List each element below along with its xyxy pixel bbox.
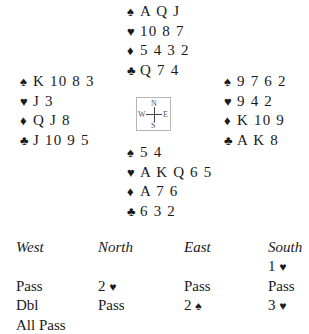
compass-diagram: N S W E (136, 97, 171, 131)
heart-icon: ♥ (279, 299, 286, 313)
south-clubs: ♣6 3 2 (127, 202, 212, 222)
heart-icon: ♥ (127, 22, 140, 42)
west-clubs: ♣J 10 9 5 (20, 131, 95, 151)
bid: Pass (268, 277, 302, 297)
compass-south-label: S (151, 122, 155, 130)
diamond-icon: ♦ (127, 41, 140, 61)
club-icon: ♣ (127, 61, 140, 81)
west-diamonds: ♦Q J 8 (20, 111, 95, 131)
auction-header-south: South (268, 237, 302, 257)
north-diamonds: ♦5 4 3 2 (127, 41, 190, 61)
bid (98, 316, 133, 334)
east-hearts: ♥9 4 2 (224, 92, 287, 112)
south-spades: ♠5 4 (127, 143, 212, 163)
west-spades: ♠K 10 8 3 (20, 72, 95, 92)
spade-icon: ♠ (195, 299, 201, 313)
west-hand: ♠K 10 8 3 ♥J 3 ♦Q J 8 ♣J 10 9 5 (20, 72, 95, 150)
compass-cross-vertical (154, 107, 155, 122)
diamond-icon: ♦ (127, 182, 140, 202)
heart-icon: ♥ (109, 280, 116, 294)
north-hearts: ♥10 8 7 (127, 22, 190, 42)
bid: Pass (98, 296, 133, 316)
auction-north-column: North 2 ♥ Pass (98, 237, 133, 334)
heart-icon: ♥ (20, 92, 33, 112)
bid (268, 316, 302, 334)
north-spades: ♠A Q J (127, 2, 190, 22)
bid: 2 ♠ (184, 296, 211, 316)
north-clubs: ♣Q 7 4 (127, 61, 190, 81)
spade-icon: ♠ (224, 72, 237, 92)
compass-west-label: W (138, 111, 146, 119)
east-spades: ♠9 7 6 2 (224, 72, 287, 92)
auction-west-column: West Pass Dbl All Pass (16, 237, 66, 334)
auction-header-east: East (184, 237, 211, 257)
bid: 2 ♥ (98, 277, 133, 297)
compass-east-label: E (163, 111, 168, 119)
auction-header-west: West (16, 237, 66, 257)
north-hand: ♠A Q J ♥10 8 7 ♦5 4 3 2 ♣Q 7 4 (127, 2, 190, 80)
east-diamonds: ♦K 10 9 (224, 111, 287, 131)
bid: Pass (184, 277, 211, 297)
south-diamonds: ♦A 7 6 (127, 182, 212, 202)
bid (98, 257, 133, 277)
spade-icon: ♠ (20, 72, 33, 92)
west-hearts: ♥J 3 (20, 92, 95, 112)
heart-icon: ♥ (279, 260, 286, 274)
diamond-icon: ♦ (224, 111, 237, 131)
spade-icon: ♠ (127, 143, 140, 163)
south-hearts: ♥A K Q 6 5 (127, 163, 212, 183)
bid: 1 ♥ (268, 257, 302, 277)
bid: All Pass (16, 316, 66, 334)
bid: 3 ♥ (268, 296, 302, 316)
bid (184, 257, 211, 277)
auction-east-column: East Pass 2 ♠ (184, 237, 211, 334)
club-icon: ♣ (224, 131, 237, 151)
auction-header-north: North (98, 237, 133, 257)
bid (16, 257, 66, 277)
east-hand: ♠9 7 6 2 ♥9 4 2 ♦K 10 9 ♣A K 8 (224, 72, 287, 150)
heart-icon: ♥ (127, 163, 140, 183)
heart-icon: ♥ (224, 92, 237, 112)
east-clubs: ♣A K 8 (224, 131, 287, 151)
club-icon: ♣ (20, 131, 33, 151)
bid (184, 316, 211, 334)
bid: Pass (16, 277, 66, 297)
bid: Dbl (16, 296, 66, 316)
club-icon: ♣ (127, 202, 140, 222)
south-hand: ♠5 4 ♥A K Q 6 5 ♦A 7 6 ♣6 3 2 (127, 143, 212, 221)
spade-icon: ♠ (127, 2, 140, 22)
auction-south-column: South 1 ♥ Pass 3 ♥ (268, 237, 302, 334)
diamond-icon: ♦ (20, 111, 33, 131)
